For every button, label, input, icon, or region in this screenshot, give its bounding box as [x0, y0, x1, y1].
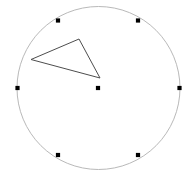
boundary-point-left-marker: [15, 86, 19, 90]
boundary-point-lower-left-marker: [56, 153, 60, 157]
boundary-point-right-marker: [177, 86, 181, 90]
center-point-marker: [96, 86, 100, 90]
boundary-point-upper-right-marker: [136, 18, 140, 22]
triangle-shape: [31, 39, 100, 78]
boundary-point-lower-right-marker: [136, 153, 140, 157]
figure-canvas: [0, 0, 192, 178]
figure-svg: [0, 0, 192, 178]
polygon-layer: [31, 39, 100, 78]
boundary-point-upper-left-marker: [56, 18, 60, 22]
points-layer: [15, 18, 181, 157]
